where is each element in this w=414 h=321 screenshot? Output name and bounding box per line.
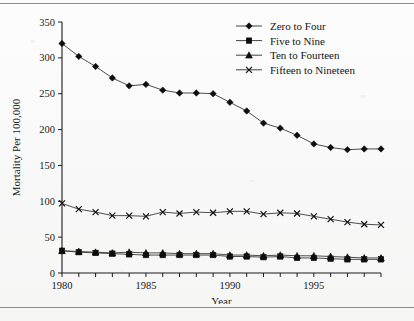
data-point-marker [294, 132, 300, 138]
y-axis-tick-label: 150 [39, 160, 55, 171]
page-rule-bottom [0, 307, 414, 308]
y-axis-title: Mortality Per 100,000 [10, 98, 22, 196]
data-point-marker [243, 108, 249, 114]
figure-page: 0501001502002503003501980198519901995Yea… [0, 0, 414, 321]
data-point-marker [160, 87, 166, 93]
y-axis-tick-label: 350 [39, 17, 55, 28]
x-axis-tick-label: 1985 [135, 280, 156, 291]
data-point-marker [176, 90, 182, 96]
legend-label: Ten to Fourteen [270, 49, 340, 61]
x-axis-title: Year [211, 295, 232, 304]
x-axis-tick-label: 1980 [52, 280, 73, 291]
data-point-marker [378, 146, 384, 152]
x-axis-tick-label: 1995 [303, 280, 324, 291]
legend-label: Fifteen to Nineteen [270, 64, 355, 76]
page-rule-top [0, 3, 414, 4]
y-axis-tick-label: 300 [39, 52, 55, 63]
legend-marker-diamond [246, 23, 252, 29]
line-chart-svg: 0501001502002503003501980198519901995Yea… [0, 8, 414, 304]
y-axis-tick-label: 50 [45, 232, 56, 243]
data-point-marker [311, 141, 317, 147]
chart-figure: 0501001502002503003501980198519901995Yea… [0, 8, 414, 304]
y-axis-tick-label: 250 [39, 88, 55, 99]
data-point-marker [327, 144, 333, 150]
data-point-marker [260, 120, 266, 126]
legend-marker-square [246, 38, 251, 43]
data-point-marker [109, 75, 115, 81]
series-fifteen-to-nineteen [59, 200, 384, 228]
y-axis-tick-label: 0 [50, 268, 55, 279]
series-five-to-nine [59, 248, 383, 262]
legend-label: Five to Nine [270, 35, 325, 47]
legend-label: Zero to Four [270, 20, 326, 32]
chart-legend: Zero to FourFive to NineTen to FourteenF… [236, 20, 355, 76]
data-point-marker [92, 63, 98, 69]
data-point-marker [361, 146, 367, 152]
data-point-marker [277, 125, 283, 131]
y-axis-tick-label: 100 [39, 196, 55, 207]
y-axis-tick-label: 200 [39, 124, 55, 135]
data-point-marker [210, 91, 216, 97]
data-point-marker [193, 90, 199, 96]
data-point-marker [227, 99, 233, 105]
x-axis-tick-label: 1990 [219, 280, 240, 291]
data-point-marker [344, 146, 350, 152]
data-point-marker [143, 81, 149, 87]
data-point-marker [126, 83, 132, 89]
